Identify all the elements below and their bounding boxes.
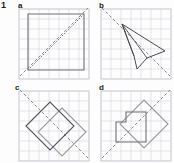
panel-a-svg	[18, 8, 90, 80]
rectangle-image	[26, 102, 74, 150]
mirror-line-icon	[102, 90, 170, 158]
question-number: 1	[1, 1, 6, 10]
grid-lines	[101, 9, 171, 79]
kite-object	[122, 24, 165, 69]
panel-b: b	[96, 2, 172, 80]
grid-border	[101, 9, 171, 79]
panel-b-canvas	[100, 8, 172, 80]
panel-d-canvas	[100, 90, 172, 162]
exercise-figure: 1 a b c	[0, 0, 174, 163]
diagonal-of-square	[28, 14, 84, 70]
panel-c-svg	[18, 90, 90, 162]
mirror-line-icon	[20, 8, 88, 76]
panel-c: c	[14, 84, 89, 162]
panel-a-canvas	[18, 8, 90, 80]
panel-c-canvas	[18, 90, 90, 162]
panel-d: d	[96, 84, 172, 162]
grid-lines	[19, 91, 89, 161]
grid-border	[19, 91, 89, 161]
grid-lines	[101, 91, 171, 161]
grid-border	[101, 91, 171, 161]
panel-d-svg	[100, 90, 172, 162]
panel-b-svg	[100, 8, 172, 80]
panel-a: a	[14, 2, 89, 80]
